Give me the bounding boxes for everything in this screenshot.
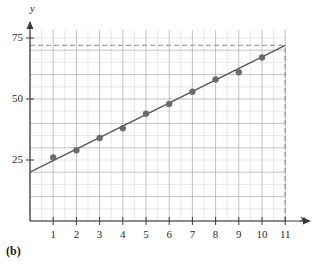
x-tick-label: 6 [160,228,178,240]
x-tick-label: 1 [44,228,62,240]
y-tick-label: 50 [1,92,23,104]
y-tick-label: 25 [1,153,23,165]
panel-label: (b) [6,244,21,259]
x-tick-label: 8 [207,228,225,240]
data-point-marker [213,76,219,82]
data-point-marker [236,69,242,75]
data-point-marker [143,111,149,117]
y-axis-label: y [30,2,35,14]
x-tick-label: 3 [91,228,109,240]
y-axis-arrowhead [27,21,34,29]
data-point-marker [73,147,79,153]
y-tick-label: 75 [1,31,23,43]
data-point-marker [189,89,195,95]
x-tick-label: 4 [114,228,132,240]
data-point-marker [259,55,265,61]
x-tick-label: 10 [253,228,271,240]
x-tick-label: 9 [230,228,248,240]
data-point-marker [50,155,56,161]
data-point-marker [166,101,172,107]
x-tick-label: 2 [67,228,85,240]
data-point-marker [120,125,126,131]
x-tick-label: 11 [276,228,294,240]
x-tick-label: 5 [137,228,155,240]
data-point-marker [97,135,103,141]
x-axis-label: x [300,212,305,224]
x-tick-label: 7 [183,228,201,240]
